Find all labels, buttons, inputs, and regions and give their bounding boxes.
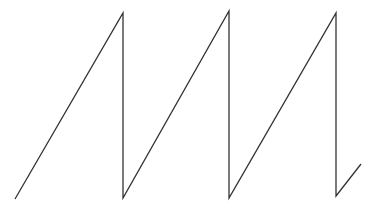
sawtooth-wave-line bbox=[15, 11, 361, 199]
sawtooth-diagram bbox=[0, 0, 375, 212]
